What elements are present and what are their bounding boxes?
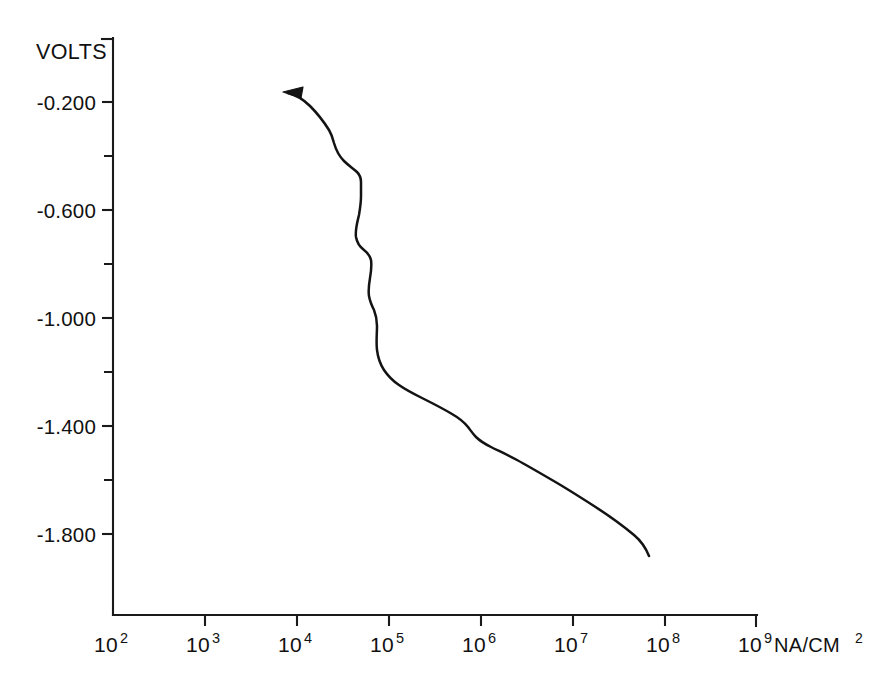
x-tick-label: 10 8	[646, 630, 680, 656]
x-axis-unit-label: NA/CM 2	[774, 630, 863, 656]
x-tick-label: 10 2	[94, 630, 128, 656]
y-axis-major-ticks	[102, 102, 113, 534]
curve-path	[288, 93, 649, 556]
x-tick-label: 10 6	[462, 630, 496, 656]
x-tick-exponent: 3	[212, 630, 220, 646]
x-tick-exponent: 6	[488, 630, 496, 646]
x-tick-exponent: 8	[672, 630, 680, 646]
y-axis-tick-labels: -0.200 -0.600 -1.000 -1.400 -1.800	[37, 91, 96, 546]
x-tick-exponent: 7	[580, 630, 588, 646]
chart-canvas: VOLTS -0.200 -0.600 -1.000 -1.400 -1.800…	[0, 0, 883, 683]
y-tick-label: -1.400	[37, 415, 96, 438]
y-axis-title: VOLTS	[36, 40, 107, 64]
x-tick-mantissa: 10	[554, 633, 578, 656]
x-tick-label: 10 4	[278, 630, 312, 656]
x-tick-exponent: 9	[764, 630, 772, 646]
x-tick-mantissa: 10	[738, 633, 762, 656]
x-tick-mantissa: 10	[646, 633, 670, 656]
x-tick-label: 10 3	[186, 630, 220, 656]
y-tick-label: -0.600	[37, 199, 96, 222]
x-axis-ticks	[205, 615, 665, 626]
y-tick-label: -1.800	[37, 523, 96, 546]
x-tick-label: 10 5	[370, 630, 404, 656]
x-tick-label: 10 7	[554, 630, 588, 656]
x-axis-tick-labels: 10 2 10 3 10 4 10 5 10 6 10 7	[94, 630, 772, 656]
polarization-chart-figure: VOLTS -0.200 -0.600 -1.000 -1.400 -1.800…	[0, 0, 883, 683]
y-tick-label: -0.200	[37, 91, 96, 114]
x-tick-exponent: 4	[304, 630, 312, 646]
x-tick-mantissa: 10	[278, 633, 302, 656]
x-tick-mantissa: 10	[186, 633, 210, 656]
x-tick-exponent: 5	[396, 630, 404, 646]
x-tick-mantissa: 10	[462, 633, 486, 656]
y-tick-label: -1.000	[37, 307, 96, 330]
data-series-polarization-curve	[283, 87, 649, 556]
x-tick-label: 10 9	[738, 630, 772, 656]
x-unit-exponent: 2	[855, 630, 863, 646]
x-tick-mantissa: 10	[370, 633, 394, 656]
x-unit-text: NA/CM	[774, 634, 840, 656]
sweep-direction-arrowhead	[283, 87, 303, 98]
x-tick-mantissa: 10	[94, 633, 118, 656]
axis-frame	[102, 38, 757, 626]
x-tick-exponent: 2	[120, 630, 128, 646]
